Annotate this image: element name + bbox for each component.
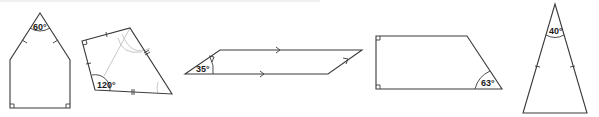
right-angle-mark-icon <box>66 104 70 108</box>
construction-arc-icon <box>118 38 142 52</box>
parallelogram-outline <box>185 50 362 74</box>
kite-outline <box>82 28 172 94</box>
construction-line <box>104 28 130 76</box>
triangle-outline <box>523 4 587 113</box>
right-angle-mark-icon <box>376 85 380 89</box>
kite-angle-label: 120° <box>97 80 116 90</box>
parallelogram-angle-label: 35° <box>196 64 210 74</box>
kite-shape: 120° <box>82 28 172 95</box>
equal-side-tick-icon <box>53 40 58 43</box>
right-angle-mark-icon <box>376 36 380 40</box>
triangle-angle-label: 40° <box>549 26 563 36</box>
equal-side-tick-icon <box>570 66 575 67</box>
equal-side-tick-icon <box>22 40 27 43</box>
right-angle-mark-icon <box>10 104 14 108</box>
equal-side-tick-icon <box>86 63 91 64</box>
trapezium-angle-label: 63° <box>481 78 495 88</box>
pentagon-shape: 60° <box>10 13 70 108</box>
equal-side-tick-icon <box>535 66 540 67</box>
trapezium-shape: 63° <box>376 36 502 89</box>
equal-side-tick-icon <box>106 32 107 37</box>
construction-arc-icon <box>157 82 158 94</box>
isosceles-triangle-shape: 40° <box>523 4 587 113</box>
parallelogram-shape: 35° <box>185 47 362 77</box>
geometry-diagram-canvas: 60° 120° 35° <box>0 0 599 117</box>
pentagon-angle-label: 60° <box>33 22 47 32</box>
